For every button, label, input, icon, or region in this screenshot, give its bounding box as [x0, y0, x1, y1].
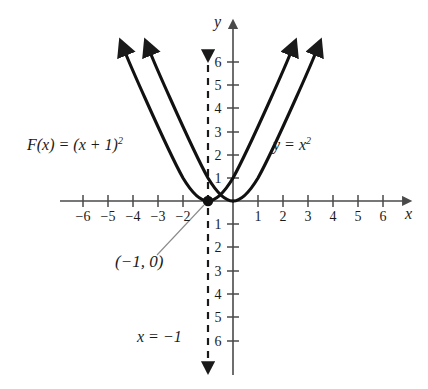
right-curve-equation-exponent: 2: [306, 135, 311, 146]
x-tick-label-3: 3: [300, 210, 316, 224]
y-tick-label-4: 4: [212, 102, 224, 116]
x-axis-name: x: [405, 206, 412, 222]
vertex-point-marker: [203, 196, 213, 206]
left-curve-equation-base: F(x) = (x + 1): [27, 136, 118, 153]
x-tick-label-neg-6: −6: [71, 210, 95, 224]
left-curve-equation-label: F(x) = (x + 1)2: [27, 137, 123, 153]
x-tick-label-4: 4: [325, 210, 341, 224]
y-tick-label-2: 2: [212, 149, 224, 163]
y-tick-label-5: 5: [212, 79, 224, 93]
x-tick-label-neg-5: −5: [96, 210, 120, 224]
x-tick-label-5: 5: [350, 210, 366, 224]
right-curve-equation-label: y = x2: [273, 137, 311, 153]
y-tick-label-neg-6: 6: [212, 335, 224, 349]
y-tick-label-neg-4: 4: [212, 288, 224, 302]
x-tick-label-neg-2: −2: [171, 210, 195, 224]
left-curve-equation-exponent: 2: [118, 135, 123, 146]
x-tick-label-1: 1: [250, 210, 266, 224]
y-tick-label-1: 1: [212, 172, 224, 186]
y-tick-label-neg-1: 1: [212, 218, 224, 232]
x-tick-label-2: 2: [275, 210, 291, 224]
x-tick-label-neg-3: −3: [146, 210, 170, 224]
y-tick-label-neg-5: 5: [212, 311, 224, 325]
y-tick-label-neg-2: 2: [212, 241, 224, 255]
y-tick-label-neg-3: 3: [212, 265, 224, 279]
vertex-point-label: (−1, 0): [115, 253, 163, 270]
x-tick-label-6: 6: [375, 210, 391, 224]
y-axis-name: y: [214, 14, 221, 30]
y-tick-label-3: 3: [212, 126, 224, 140]
x-tick-label-neg-4: −4: [121, 210, 145, 224]
vertical-line-equation-label: x = −1: [137, 329, 182, 345]
graph-figure: y x −6 −5 −4 −3 −2 1 2 3 4 5 6 1 2 3 4 5…: [0, 0, 428, 389]
y-tick-label-6: 6: [212, 56, 224, 70]
right-curve-equation-base: y = x: [273, 136, 306, 153]
